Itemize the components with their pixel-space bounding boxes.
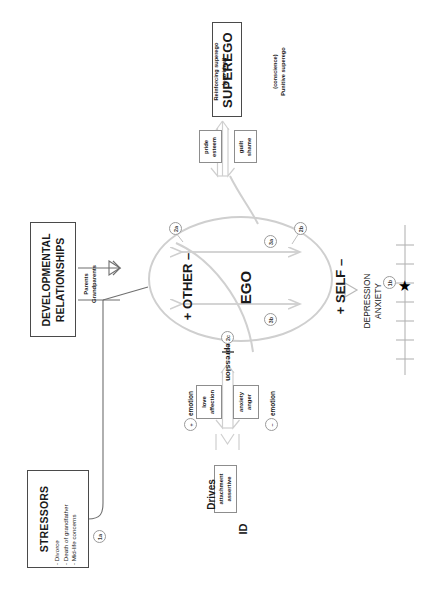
anxiety-line2: anger	[246, 394, 252, 410]
drives-box: attachment assertive	[214, 465, 237, 513]
anxiety-anger-box: anxiety anger	[233, 385, 259, 419]
guilt-line2: shame	[246, 137, 252, 155]
marker-3a: 3a	[264, 235, 277, 248]
stressors-path-tip	[103, 287, 148, 300]
superego-left-caption: Reinforcing superego (ego ideal)	[213, 26, 228, 118]
pride-esteem-box: pride esteem	[199, 130, 222, 163]
marker-2a: 2a	[169, 222, 182, 235]
symptoms-label: DEPRESSION ANXIETY	[362, 261, 384, 341]
drives-label: Drives	[206, 465, 217, 525]
symptoms-line2: ANXIETY	[373, 283, 383, 319]
anxiety-line1: anxiety	[238, 392, 244, 412]
superego-left-caption-line2: (ego ideal)	[221, 58, 227, 86]
marker-positive-emotion: +	[184, 418, 197, 431]
marker-2c: 2c	[221, 331, 234, 344]
emotion-id-block-arrow	[216, 434, 239, 450]
severity-star: ★	[398, 278, 411, 293]
devrel-caption-line2: Grandparents	[91, 265, 97, 303]
developmental-relationships-box: DEVELOPMENTAL RELATIONSHIPS	[30, 222, 76, 337]
pride-line1: pride	[203, 139, 209, 153]
marker-negative-emotion: –	[265, 418, 278, 431]
marker-3b: 3b	[264, 313, 277, 326]
self-axis-label: + SELF –	[333, 242, 348, 332]
pride-line2: esteem	[211, 137, 217, 157]
devrel-caption-line1: Parents	[83, 273, 89, 294]
stressors-path	[88, 300, 103, 519]
devrel-caption: Parents Grandparents	[82, 264, 98, 304]
drives-line2: assertive	[226, 476, 232, 501]
stressors-item-0: - Divorce	[53, 473, 62, 565]
guilt-shame-box: guilt shame	[234, 130, 257, 163]
marker-1b: 1b	[383, 276, 396, 289]
marker-1a: 1a	[93, 530, 106, 543]
stressors-title: STRESSORS	[38, 473, 50, 565]
ego-center-label: EGO	[237, 258, 254, 318]
symptoms-line1: DEPRESSION	[362, 274, 372, 329]
drives-line1: attachment	[218, 474, 224, 505]
superego-right-caption-line1: (conscience)	[272, 55, 278, 89]
marker-2b: 2b	[294, 222, 307, 235]
devrel-title-line2: RELATIONSHIPS	[53, 226, 67, 334]
superego-right-caption: (conscience) Punitive superego	[272, 26, 287, 118]
guilt-line1: guilt	[238, 140, 244, 152]
diagram-canvas: STRESSORS - Divorce - Death of grandfath…	[0, 0, 429, 604]
love-line1: love	[201, 396, 207, 408]
id-title: ID	[237, 514, 249, 544]
other-axis-label: + OTHER –	[180, 242, 195, 332]
superego-left-caption-line1: Reinforcing superego	[213, 43, 219, 101]
devrel-title-line1: DEVELOPMENTAL	[39, 226, 53, 334]
love-line2: affection	[209, 390, 215, 414]
stressors-item-1: - Death of grandfather	[61, 473, 70, 565]
superego-right-caption-line2: Punitive superego	[280, 47, 286, 96]
stressors-box: STRESSORS - Divorce - Death of grandfath…	[27, 470, 89, 568]
love-affection-box: love affection	[196, 385, 222, 419]
severity-axis	[396, 225, 414, 375]
stressors-item-2: - Mid-life concerns	[70, 473, 79, 565]
